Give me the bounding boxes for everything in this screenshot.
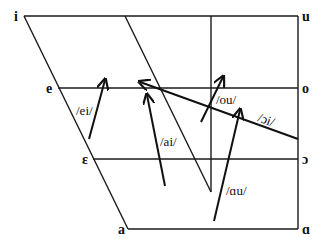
vowel-chart: i u e o ε ɔ a ɑ /ei/ /ai/ /ou/ /ɔi/ /ɑu/ (0, 0, 326, 247)
vowel-epsilon: ε (82, 152, 88, 167)
arrow-oi (140, 82, 298, 139)
label-ou: /ou/ (216, 92, 237, 107)
label-ai: /ai/ (160, 134, 177, 149)
label-ei: /ei/ (76, 103, 93, 118)
label-au: /ɑu/ (226, 183, 247, 198)
vowel-open-o: ɔ (302, 152, 308, 167)
vowel-u: u (302, 9, 310, 24)
vowel-i: i (14, 9, 18, 24)
vowel-script-a: ɑ (302, 222, 310, 237)
vowel-e: e (46, 81, 52, 96)
vowel-a: a (118, 222, 125, 237)
vowel-o: o (302, 81, 309, 96)
label-oi: /ɔi/ (256, 110, 277, 130)
left-edge (24, 16, 128, 229)
arrow-au (214, 110, 240, 221)
